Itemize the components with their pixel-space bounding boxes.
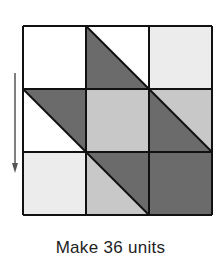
quilt-cell	[23, 26, 86, 89]
quilt-grid	[23, 26, 212, 215]
caption-text: Make 36 units	[0, 238, 221, 257]
quilt-cell	[149, 152, 212, 215]
quilt-cell	[23, 152, 86, 215]
down-arrow-icon	[12, 73, 18, 173]
quilt-cell	[86, 89, 149, 152]
quilt-cell	[149, 26, 212, 89]
